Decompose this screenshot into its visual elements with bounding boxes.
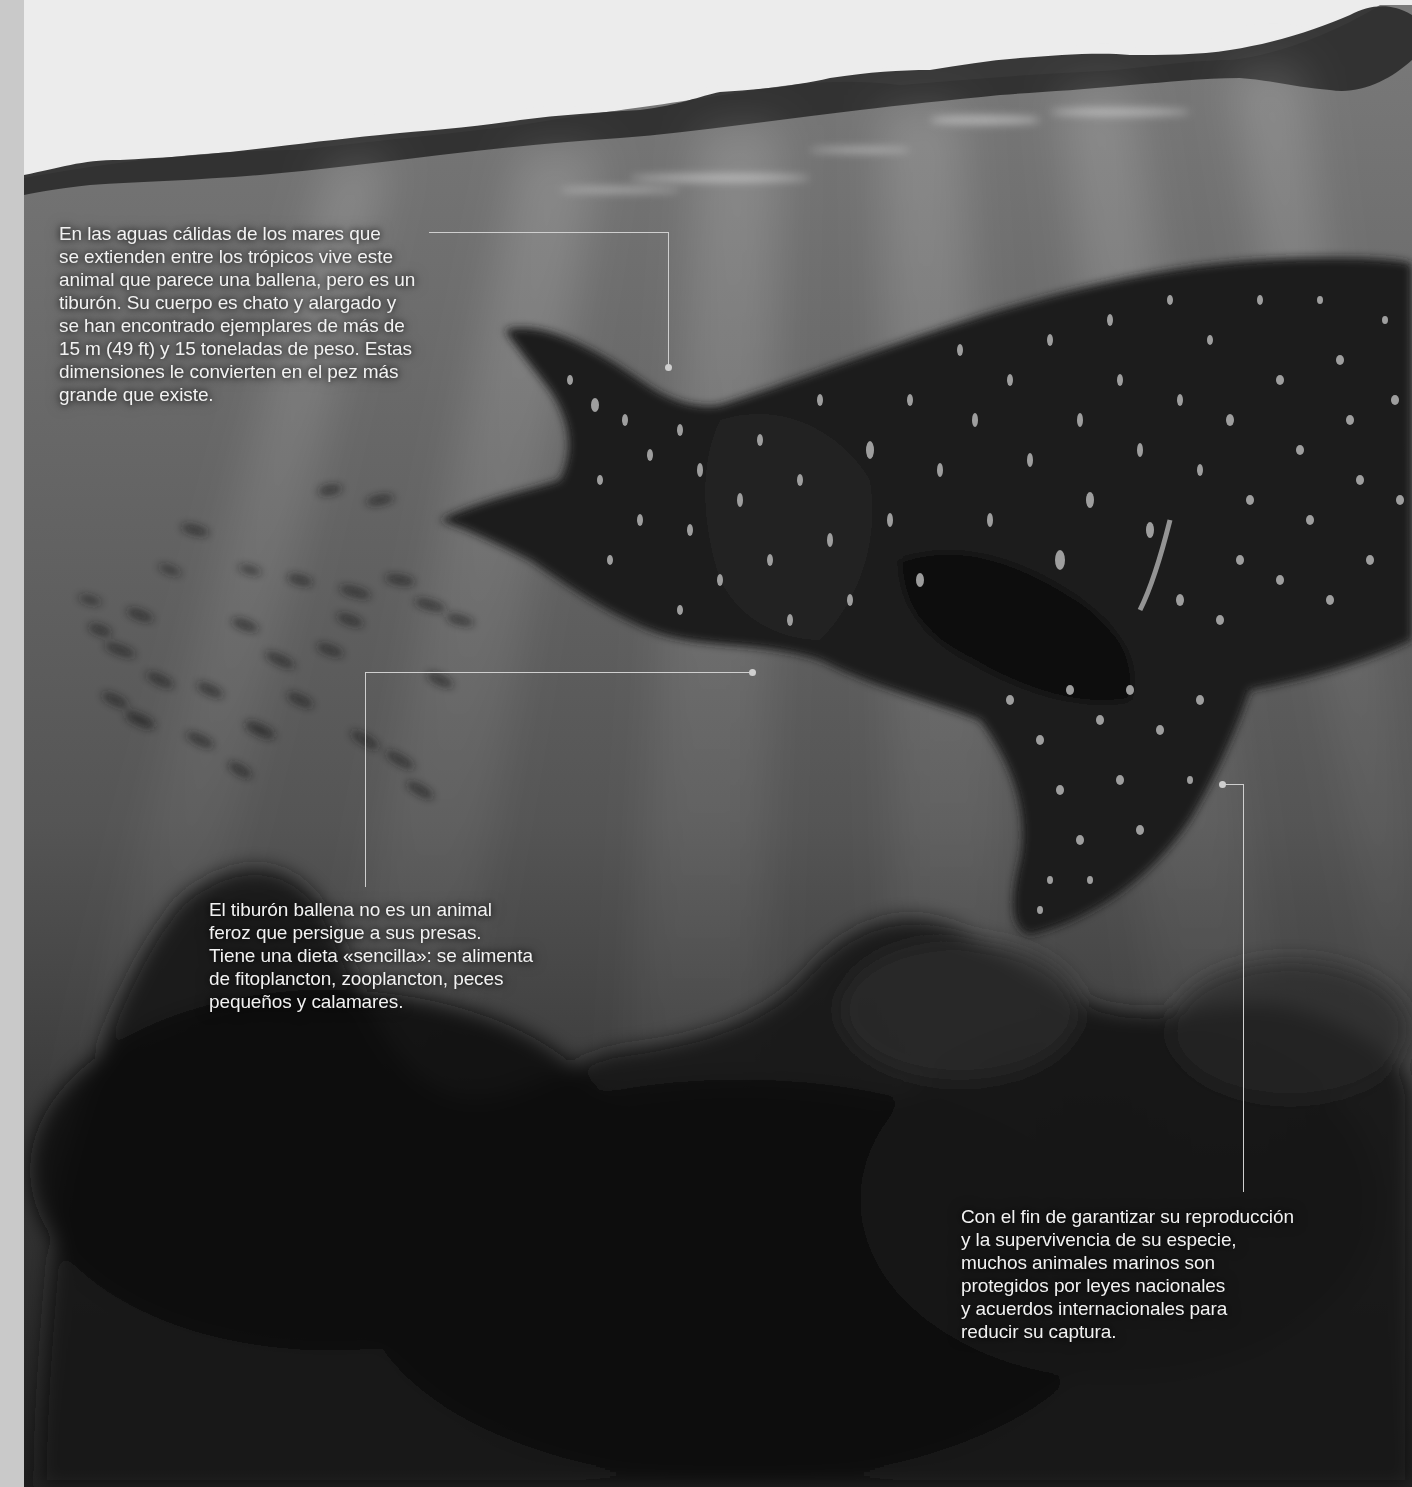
leader-line-diet-v bbox=[365, 672, 366, 887]
leader-dot-diet bbox=[749, 669, 756, 676]
caption-protection: Con el fin de garantizar su reproducción… bbox=[961, 1205, 1361, 1343]
caption-intro: En las aguas cálidas de los mares que se… bbox=[59, 222, 489, 406]
caption-diet: El tiburón ballena no es un animal feroz… bbox=[209, 898, 579, 1013]
leader-dot-intro bbox=[665, 364, 672, 371]
leader-line-protection-v bbox=[1243, 784, 1244, 1192]
leader-line-diet-h bbox=[365, 672, 752, 673]
leader-dot-protection bbox=[1219, 781, 1226, 788]
leader-line-intro-v bbox=[668, 232, 669, 366]
page-edge-strip bbox=[0, 0, 24, 1487]
